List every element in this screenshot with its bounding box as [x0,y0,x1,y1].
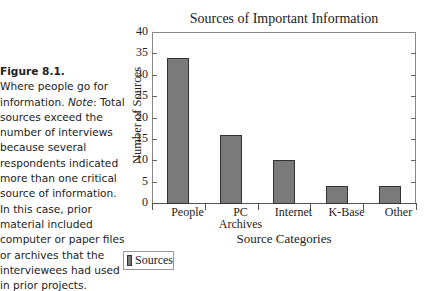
chart-title: Sources of Important Information [152,11,416,27]
y-tick-mark [152,118,157,119]
x-axis-title: Source Categories [152,231,416,247]
y-tick-mark [411,160,416,161]
y-tick-label: 35 [126,45,148,60]
legend-swatch [127,255,132,266]
x-tick-mark [152,203,153,210]
y-tick-label: 10 [126,152,148,167]
bar-pc-archives [220,135,242,204]
y-tick-label: 20 [126,110,148,125]
bar-internet [273,160,295,204]
y-tick-mark [411,96,416,97]
y-tick-label: 5 [126,174,148,189]
x-tick-label-people: People [161,206,214,218]
bar-people [167,58,189,204]
y-tick-mark [152,96,157,97]
x-tick-label-internet: Internet [267,206,320,218]
legend-label: Sources [135,253,173,268]
caption-text: Where people go for information. Note: T… [0,80,125,291]
figure-label: Figure 8.1. [0,64,128,79]
y-tick-mark [152,75,157,76]
y-tick-label: 40 [126,24,148,39]
y-tick-label: 30 [126,67,148,82]
y-tick-mark [411,118,416,119]
y-tick-mark [411,182,416,183]
y-tick-mark [152,182,157,183]
bar-k-base [326,186,348,204]
x-tick-label-other: Other [372,206,425,218]
y-tick-mark [411,75,416,76]
y-tick-mark [411,53,416,54]
y-tick-label: 15 [126,131,148,146]
x-tick-label-pc-archives: PCArchives [214,206,267,230]
note-label: Note [68,96,93,108]
y-tick-mark [152,160,157,161]
y-tick-mark [411,139,416,140]
y-tick-mark [152,139,157,140]
bar-other [379,186,401,204]
figure-caption: Figure 8.1. Where people go for informat… [0,64,128,291]
y-tick-label: 25 [126,88,148,103]
x-tick-label-k-base: K-Base [320,206,373,218]
legend: Sources [123,251,174,270]
y-tick-mark [152,53,157,54]
y-tick-label: 0 [126,195,148,210]
